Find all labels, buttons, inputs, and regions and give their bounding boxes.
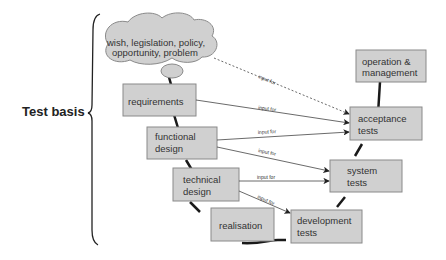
operation-management-box: operation & management [356, 50, 426, 82]
acceptance-label-1: acceptance [358, 113, 407, 124]
requirements-label: requirements [128, 96, 184, 107]
development-label-1: development [297, 215, 352, 226]
brace [88, 14, 100, 245]
system-label-2: tests [347, 177, 367, 188]
functional-label-1: functional [155, 131, 196, 142]
arrow-label: input for [257, 193, 276, 206]
system-tests-box: system tests [330, 160, 402, 192]
operation-label-1: operation & [362, 56, 411, 67]
development-tests-box: development tests [291, 210, 362, 243]
operation-label-2: management [362, 67, 418, 78]
realisation-label: realisation [219, 220, 262, 231]
technical-design-box: technical design [173, 168, 239, 201]
title: Test basis [22, 104, 85, 119]
arrow-label: input for [257, 174, 275, 180]
functional-label-2: design [155, 143, 183, 154]
test-basis-diagram: Test basis wish, legislation, policy, op… [0, 0, 446, 260]
requirements-box: requirements [123, 84, 196, 116]
arrow-label: input for [258, 147, 277, 157]
technical-label-2: design [183, 186, 211, 197]
functional-design-box: functional design [147, 127, 217, 159]
cloud-text-2: opportunity, problem [112, 47, 198, 58]
system-label-1: system [347, 165, 377, 176]
acceptance-label-2: tests [358, 125, 378, 136]
acceptance-tests-box: acceptance tests [350, 107, 422, 140]
technical-label-1: technical [183, 174, 221, 185]
arrow-label: input for [258, 128, 277, 135]
cloud: wish, legislation, policy, opportunity, … [105, 13, 217, 78]
arrow-label: input for [258, 104, 277, 113]
realisation-box: realisation [211, 208, 274, 241]
arrow-label: input for [258, 73, 277, 85]
development-label-2: tests [297, 227, 317, 238]
